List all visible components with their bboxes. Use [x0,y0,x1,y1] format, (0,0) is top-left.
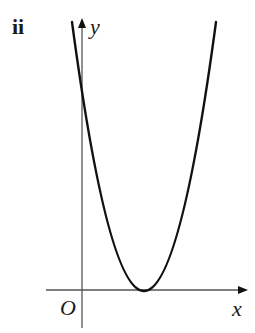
y-axis-label: y [88,14,100,39]
origin-label: O [60,295,76,320]
graph: y x O [0,0,255,333]
x-axis-label: x [231,296,242,321]
parabola-curve [72,22,216,291]
